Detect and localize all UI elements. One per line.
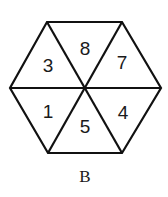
segment-label-lower-left: 1	[43, 101, 54, 122]
figure-caption: B	[79, 167, 90, 186]
segment-label-lower-right: 4	[118, 102, 129, 123]
segment-label-upper-right: 7	[117, 52, 128, 73]
hexagon-diagram: 3 8 7 4 5 1 B	[0, 0, 168, 197]
segment-label-upper-left: 3	[43, 55, 54, 76]
segment-label-top: 8	[80, 38, 91, 59]
segment-label-bottom: 5	[80, 116, 91, 137]
